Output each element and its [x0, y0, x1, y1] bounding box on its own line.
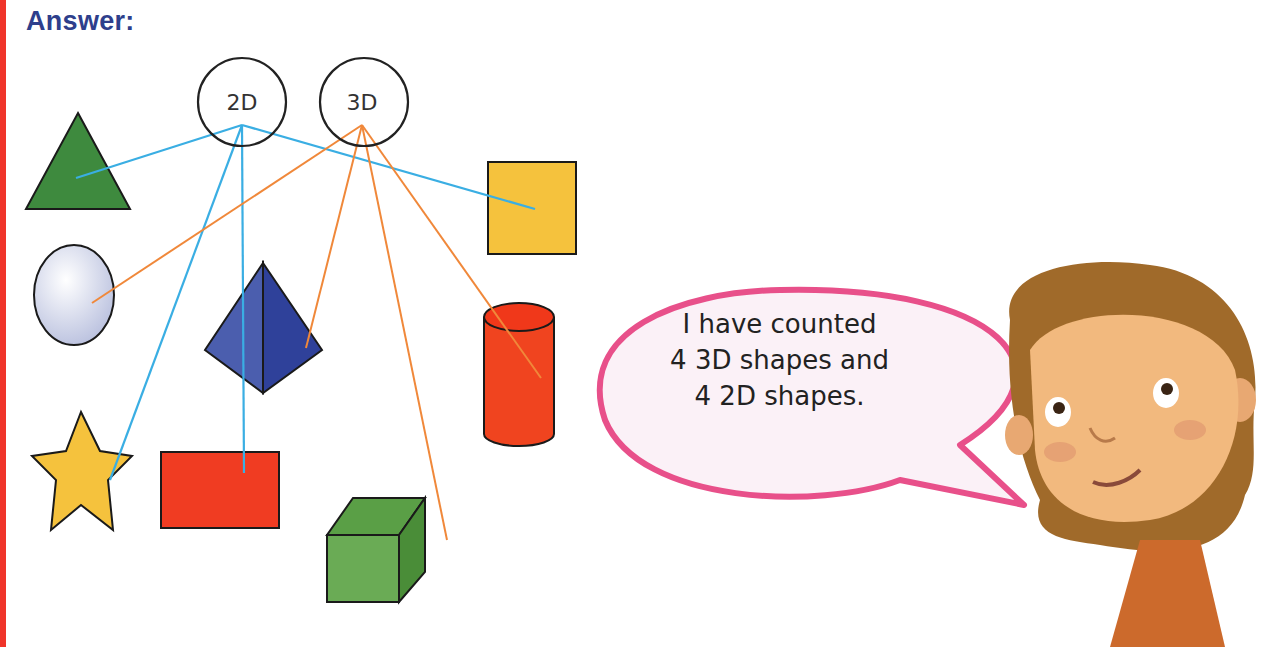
speech-line-1: I have counted: [612, 306, 947, 342]
triangle-shape: [26, 113, 130, 209]
sphere-shape: [34, 245, 114, 345]
lines-2d: [76, 125, 535, 480]
lines-3d: [92, 125, 541, 540]
girl-illustration: [1005, 262, 1256, 647]
speech-line-2: 4 3D shapes and: [612, 342, 947, 378]
cylinder-shape: [484, 303, 554, 446]
cube-shape: [327, 498, 425, 602]
rectangle-shape: [161, 452, 279, 528]
speech-line-3: 4 2D shapes.: [612, 378, 947, 414]
category-3d-label: 3D: [347, 90, 378, 115]
speech-bubble-text: I have counted 4 3D shapes and 4 2D shap…: [612, 306, 947, 414]
star-shape: [32, 412, 132, 530]
pyramid-shape: [205, 263, 322, 393]
category-2d-label: 2D: [227, 90, 258, 115]
